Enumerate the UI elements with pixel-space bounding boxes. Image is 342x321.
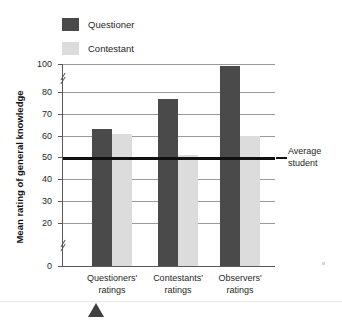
y-axis-break-lower bbox=[58, 240, 68, 250]
bar-questioner-questioners-ratings bbox=[92, 129, 112, 267]
average-student-line2: student bbox=[288, 158, 321, 170]
y-tick-40: 40 bbox=[58, 179, 62, 180]
chart-figure: Questioner Contestant Mean rating of gen… bbox=[0, 0, 342, 321]
x-category-line2-questioners: ratings bbox=[75, 284, 149, 296]
gridline-100 bbox=[62, 64, 275, 65]
plot-area: 100 80 70 60 50 40 30 20 0 Questio bbox=[62, 64, 275, 267]
bar-contestant-contestants-ratings bbox=[178, 155, 198, 266]
average-student-leader-line bbox=[276, 157, 287, 159]
y-axis-line bbox=[62, 64, 63, 267]
x-category-label-observers-ratings: Observers' ratings bbox=[203, 272, 277, 296]
bar-questioner-contestants-ratings bbox=[158, 99, 178, 266]
y-tick-label-20: 20 bbox=[42, 218, 52, 228]
y-tick-50: 50 bbox=[58, 157, 62, 158]
footer-divider bbox=[0, 301, 342, 302]
y-tick-60: 60 bbox=[58, 136, 62, 137]
bar-contestant-questioners-ratings bbox=[112, 134, 132, 266]
y-axis-title: Mean rating of general knowledge bbox=[14, 74, 25, 260]
y-tick-label-0: 0 bbox=[47, 261, 52, 271]
bar-questioner-observers-ratings bbox=[220, 66, 240, 266]
chart-legend: Questioner Contestant bbox=[62, 16, 134, 64]
legend-item-questioner: Questioner bbox=[62, 16, 134, 32]
x-category-label-questioners-ratings: Questioners' ratings bbox=[75, 272, 149, 296]
y-tick-70: 70 bbox=[58, 114, 62, 115]
average-student-reference-line bbox=[62, 157, 275, 159]
footer-triangle-marker bbox=[88, 303, 104, 317]
y-tick-80: 80 bbox=[58, 92, 62, 93]
legend-swatch-questioner bbox=[62, 18, 79, 31]
legend-label-questioner: Questioner bbox=[88, 18, 134, 31]
x-category-line1-observers: Observers' bbox=[203, 272, 277, 284]
average-student-line1: Average bbox=[288, 146, 321, 158]
legend-label-contestant: Contestant bbox=[88, 42, 134, 55]
gridline-80 bbox=[62, 92, 275, 93]
y-tick-0: 0 bbox=[58, 266, 62, 267]
legend-swatch-contestant bbox=[62, 42, 79, 55]
x-category-line2-observers: ratings bbox=[203, 284, 277, 296]
y-tick-label-80: 80 bbox=[42, 87, 52, 97]
page-speck-right bbox=[322, 262, 325, 265]
x-axis-line bbox=[62, 266, 275, 267]
x-category-line1-questioners: Questioners' bbox=[75, 272, 149, 284]
y-tick-label-60: 60 bbox=[42, 131, 52, 141]
y-tick-20: 20 bbox=[58, 223, 62, 224]
y-tick-label-40: 40 bbox=[42, 174, 52, 184]
legend-item-contestant: Contestant bbox=[62, 40, 134, 56]
y-tick-label-30: 30 bbox=[42, 196, 52, 206]
y-axis-break-upper bbox=[58, 73, 68, 83]
average-student-annotation: Average student bbox=[288, 146, 321, 169]
bar-contestant-observers-ratings bbox=[240, 136, 260, 266]
y-tick-label-50: 50 bbox=[42, 152, 52, 162]
y-tick-30: 30 bbox=[58, 201, 62, 202]
y-tick-100: 100 bbox=[58, 64, 62, 65]
y-tick-label-100: 100 bbox=[37, 59, 52, 69]
y-tick-label-70: 70 bbox=[42, 109, 52, 119]
